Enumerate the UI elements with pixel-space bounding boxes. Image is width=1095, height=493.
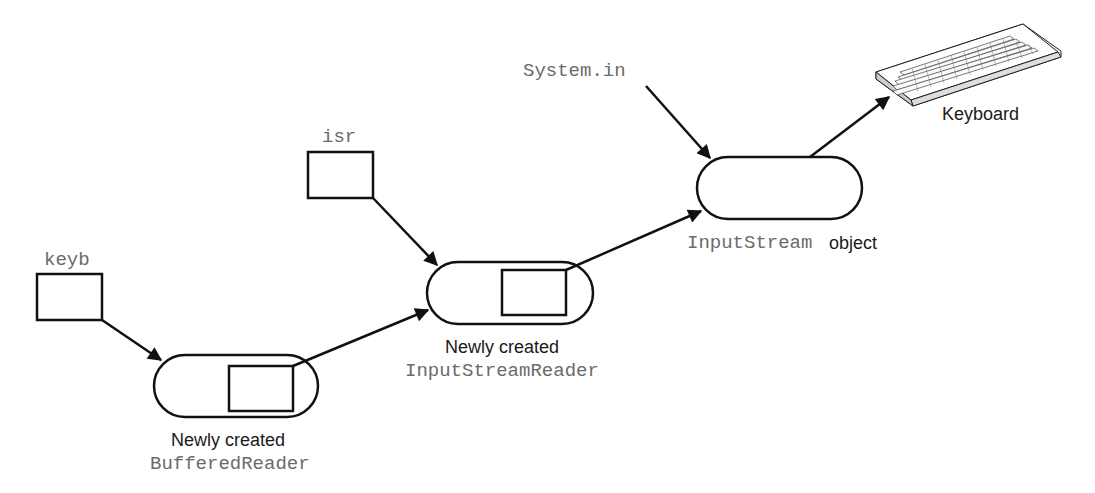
system-in-label: System.in bbox=[523, 60, 626, 82]
isr-variable-label: isr bbox=[322, 126, 356, 148]
buffered-reader-caption-line1: Newly created bbox=[171, 430, 285, 451]
input-stream-object bbox=[697, 157, 862, 219]
keyboard-label: Keyboard bbox=[942, 104, 1019, 125]
arrow-input-stream-reader-to-input-stream bbox=[566, 211, 701, 270]
arrow-system-in-to-input-stream bbox=[646, 86, 710, 158]
input-stream-caption-text: object bbox=[829, 233, 877, 254]
buffered-reader-object bbox=[154, 355, 318, 417]
input-stream-reader-caption-line2: InputStreamReader bbox=[405, 360, 599, 382]
input-stream-reader-field-box bbox=[502, 270, 566, 315]
arrow-isr-to-input-stream-reader bbox=[373, 198, 437, 265]
input-stream-reader-object bbox=[427, 262, 593, 324]
keyb-variable-box bbox=[37, 274, 102, 320]
isr-variable-box bbox=[308, 152, 373, 198]
diagram-canvas: keyb isr System.in Newly created Buffere… bbox=[0, 0, 1095, 493]
keyb-variable-label: keyb bbox=[44, 249, 90, 271]
buffered-reader-caption-line2: BufferedReader bbox=[150, 453, 310, 475]
input-stream-caption-code: InputStream bbox=[687, 232, 812, 254]
keyboard-icon bbox=[876, 24, 1061, 106]
buffered-reader-field-box bbox=[229, 366, 293, 411]
arrow-input-stream-to-keyboard bbox=[810, 97, 889, 157]
input-stream-reader-caption-line1: Newly created bbox=[445, 337, 559, 358]
arrow-buffered-reader-to-input-stream-reader bbox=[293, 310, 428, 366]
arrow-keyb-to-buffered-reader bbox=[102, 320, 161, 360]
